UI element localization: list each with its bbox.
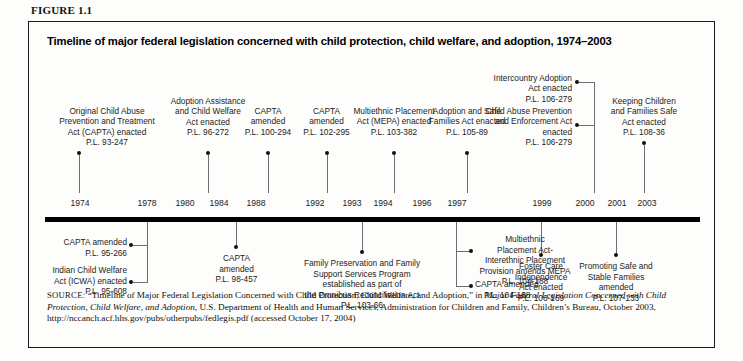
event-label-1978-capta: CAPTA amended P.L. 95-266 xyxy=(29,237,127,258)
connector-1993 xyxy=(362,222,363,251)
connector-2000 xyxy=(594,82,595,193)
connector-1978-branch-bottom xyxy=(133,282,148,283)
connector-1978-bracket xyxy=(147,245,148,283)
axis-year-1993: 1993 xyxy=(342,198,361,208)
event-line: Multiethnic xyxy=(461,234,589,245)
axis-year-2001: 2001 xyxy=(607,198,626,208)
connector-1980 xyxy=(208,155,209,193)
event-line: Act enacted xyxy=(597,117,691,127)
event-line: Support Services Program xyxy=(277,269,447,280)
event-line: and Enforcement Act xyxy=(454,116,572,126)
connector-2000-branch-bottom xyxy=(579,125,595,126)
connector-1988 xyxy=(268,155,269,193)
event-label-2000-intercountry-adoption: Intercountry Adoption Act enacted P.L. 1… xyxy=(469,73,572,104)
timeline-axis xyxy=(45,217,700,222)
event-marker-1978-capta xyxy=(129,243,133,247)
event-label-1974: Original Child Abuse Prevention and Trea… xyxy=(47,106,167,147)
figure-label: FIGURE 1.1 xyxy=(31,4,92,16)
connector-1992 xyxy=(327,155,328,193)
event-public-law: P.L. 108-36 xyxy=(597,127,691,137)
axis-year-1992: 1992 xyxy=(305,198,324,208)
event-public-law: P.L. 106-279 xyxy=(454,137,572,147)
connector-1997-below xyxy=(456,222,457,244)
event-line: Adoption Assistance xyxy=(153,96,263,106)
event-line: Act enacted xyxy=(469,83,572,93)
source-text-1: “Timeline of Major Federal Legislation C… xyxy=(88,290,485,300)
event-public-law: P.L. 98-457 xyxy=(194,274,279,285)
event-line: enacted xyxy=(454,127,572,137)
connector-1984 xyxy=(236,222,237,246)
event-label-1984: CAPTA amended P.L. 98-457 xyxy=(194,253,279,285)
figure-container: Timeline of major federal legislation co… xyxy=(28,21,715,348)
event-line: amended xyxy=(194,264,279,275)
connector-1978-branch-top xyxy=(133,245,148,246)
event-marker-1984 xyxy=(234,245,238,249)
event-line: Prevention and Treatment xyxy=(47,116,167,126)
event-marker-1978-icwa xyxy=(129,280,133,284)
timeline-plot: Original Child Abuse Prevention and Trea… xyxy=(29,22,716,284)
event-line: Intercountry Adoption xyxy=(469,73,572,83)
axis-year-1980: 1980 xyxy=(175,198,194,208)
axis-year-1974: 1974 xyxy=(70,198,89,208)
event-marker-2001 xyxy=(614,253,618,257)
axis-year-1978: 1978 xyxy=(137,198,156,208)
source-prefix: SOURCE: xyxy=(47,290,85,300)
connector-1994 xyxy=(394,155,395,193)
axis-year-1984: 1984 xyxy=(209,198,228,208)
source-note: SOURCE: “Timeline of Major Federal Legis… xyxy=(47,290,699,325)
event-public-law: P.L. 95-266 xyxy=(29,248,127,259)
axis-year-1996: 1996 xyxy=(412,198,431,208)
connector-1974 xyxy=(79,155,80,193)
connector-2000-branch-top xyxy=(579,82,595,83)
event-line: Original Child Abuse xyxy=(47,106,167,116)
event-line: Family Preservation and Family xyxy=(277,258,447,269)
connector-1997 xyxy=(467,155,468,193)
event-marker-1993 xyxy=(360,250,364,254)
event-label-2003: Keeping Children and Families Safe Act e… xyxy=(597,96,691,137)
axis-year-1997: 1997 xyxy=(447,198,466,208)
event-line: Act (ICWA) enacted xyxy=(29,276,127,287)
connector-2003 xyxy=(644,145,645,193)
event-public-law: P.L. 106-279 xyxy=(469,94,572,104)
event-line: Stable Families xyxy=(562,272,670,283)
event-line: and Families Safe xyxy=(597,106,691,116)
event-line: Indian Child Welfare xyxy=(29,265,127,276)
connector-1978 xyxy=(147,222,148,245)
event-line: Promoting Safe and xyxy=(562,261,670,272)
event-line: CAPTA amended xyxy=(29,237,127,248)
axis-year-1999: 1999 xyxy=(532,198,551,208)
event-label-2000-child-abuse-prevention: Child Abuse Prevention and Enforcement A… xyxy=(454,106,572,147)
axis-year-2000: 2000 xyxy=(575,198,594,208)
event-line: established as part of xyxy=(277,279,447,290)
event-line: Act (CAPTA) enacted xyxy=(47,127,167,137)
axis-year-1988: 1988 xyxy=(246,198,265,208)
axis-year-2003: 2003 xyxy=(637,198,656,208)
event-line: Placement Act- xyxy=(461,245,589,256)
event-public-law: P.L. 93-247 xyxy=(47,137,167,147)
event-line: CAPTA xyxy=(194,253,279,264)
event-line: Keeping Children xyxy=(597,96,691,106)
event-line: Child Abuse Prevention xyxy=(454,106,572,116)
connector-2001 xyxy=(616,222,617,254)
axis-year-1994: 1994 xyxy=(373,198,392,208)
